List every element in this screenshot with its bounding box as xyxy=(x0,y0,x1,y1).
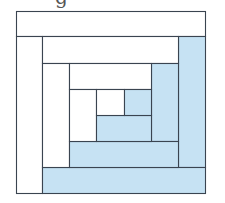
quilt-piece-bottom-1 xyxy=(43,168,206,194)
quilt-piece-bottom-2 xyxy=(70,142,179,168)
quilt-piece-center-dark xyxy=(125,90,152,116)
log-cabin-quilt-block xyxy=(0,0,225,203)
quilt-piece-left-2 xyxy=(43,64,70,168)
quilt-piece-top-1 xyxy=(17,12,206,37)
quilt-piece-left-3 xyxy=(70,90,97,142)
quilt-piece-right-1 xyxy=(179,37,206,168)
quilt-piece-left-1 xyxy=(17,37,43,194)
quilt-piece-center-light xyxy=(97,90,125,116)
quilt-piece-top-3 xyxy=(70,64,152,90)
quilt-piece-right-2 xyxy=(152,64,179,142)
quilt-piece-top-2 xyxy=(43,37,179,64)
quilt-piece-bottom-3 xyxy=(97,116,152,142)
